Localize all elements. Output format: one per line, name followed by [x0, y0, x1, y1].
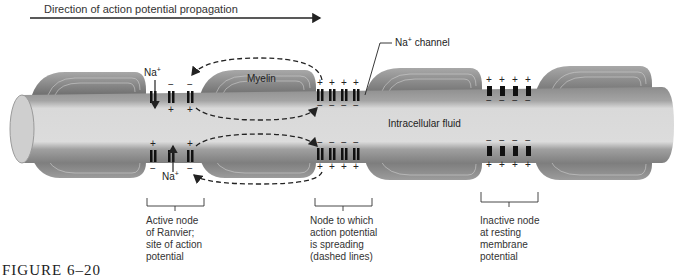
svg-text:+: + — [486, 74, 492, 85]
na-ion-label-top: Na+ — [144, 66, 161, 78]
svg-text:+: + — [329, 77, 335, 88]
svg-text:−: − — [341, 100, 347, 111]
svg-text:−: − — [499, 95, 505, 106]
svg-text:−: − — [329, 100, 335, 111]
bracket-active-node — [147, 198, 204, 206]
svg-text:−: − — [187, 163, 193, 174]
svg-text:−: − — [353, 137, 359, 148]
figure-caption: FIGURE 6–20 — [2, 262, 101, 275]
svg-text:−: − — [187, 79, 193, 90]
svg-text:−: − — [499, 135, 505, 146]
svg-text:+: + — [150, 138, 156, 149]
svg-text:−: − — [341, 137, 347, 148]
bracket-inactive-node — [481, 192, 538, 202]
svg-text:−: − — [150, 163, 156, 174]
svg-text:−: − — [486, 95, 492, 106]
na-ion-label-bottom: Na+ — [162, 170, 179, 182]
svg-text:+: + — [512, 159, 518, 170]
myelin-label: Myelin — [247, 73, 276, 84]
svg-text:−: − — [353, 100, 359, 111]
svg-text:+: + — [525, 74, 531, 85]
na-channel-label: Na+ channel — [395, 36, 450, 48]
intracellular-fluid-label: Intracellular fluid — [388, 118, 461, 129]
svg-text:+: + — [341, 77, 347, 88]
svg-text:+: + — [353, 161, 359, 172]
caption-inactive-node: Inactive nodeat resting membranepotentia… — [480, 215, 540, 263]
svg-text:+: + — [486, 159, 492, 170]
svg-text:−: − — [317, 100, 323, 111]
svg-text:+: + — [353, 77, 359, 88]
svg-text:−: − — [486, 135, 492, 146]
svg-text:+: + — [525, 159, 531, 170]
svg-text:+: + — [317, 161, 323, 172]
svg-text:−: − — [525, 95, 531, 106]
svg-text:−: − — [512, 95, 518, 106]
svg-text:+: + — [499, 159, 505, 170]
svg-text:+: + — [341, 161, 347, 172]
svg-text:+: + — [168, 104, 174, 115]
svg-text:−: − — [168, 79, 174, 90]
svg-text:+: + — [187, 104, 193, 115]
svg-text:−: − — [525, 135, 531, 146]
svg-text:−: − — [329, 137, 335, 148]
svg-text:+: + — [187, 138, 193, 149]
svg-text:+: + — [329, 161, 335, 172]
caption-active-node: Active nodeof Ranvier; site of actionpot… — [146, 215, 202, 263]
svg-text:−: − — [512, 135, 518, 146]
bracket-spreading-node — [315, 198, 372, 206]
svg-text:+: + — [512, 74, 518, 85]
svg-text:+: + — [499, 74, 505, 85]
axon — [22, 87, 674, 163]
svg-text:−: − — [317, 137, 323, 148]
axon-cross-section — [10, 95, 34, 163]
caption-spreading-node: Node to whichaction potential is spreadi… — [310, 215, 377, 263]
